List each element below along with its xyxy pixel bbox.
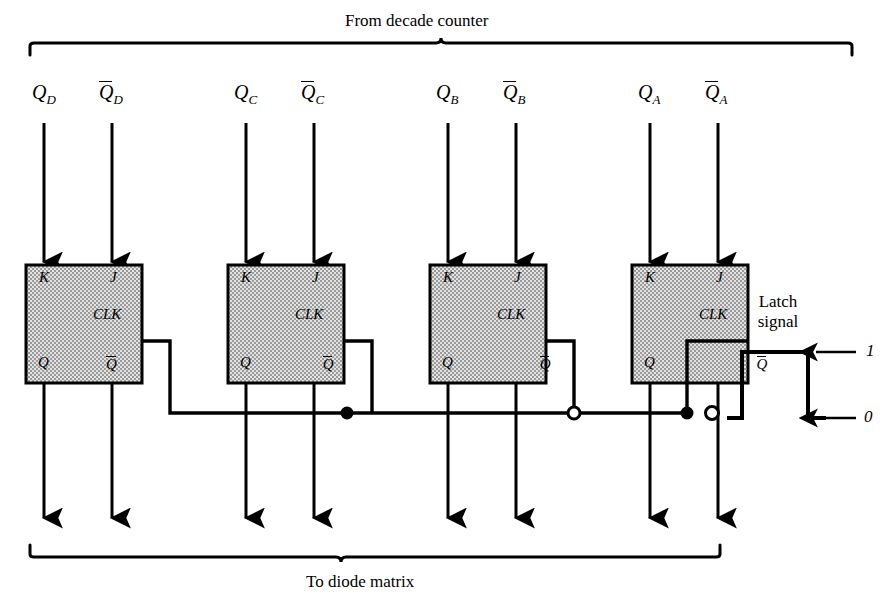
input-label-qbar-d-base: Q bbox=[99, 82, 113, 102]
ff-c-pin-k: K bbox=[241, 270, 251, 285]
input-label-q-b-sub: B bbox=[450, 92, 458, 107]
ff-a-pin-k: K bbox=[645, 270, 655, 285]
input-label-q-d: QD bbox=[32, 82, 56, 106]
input-label-q-d-base: Q bbox=[32, 81, 46, 103]
input-label-qbar-b-base: Q bbox=[503, 82, 517, 102]
ff-c-pin-clk: CLK bbox=[295, 307, 323, 322]
ff-c-pin-q: Q bbox=[240, 355, 251, 370]
bottom-brace-label: To diode matrix bbox=[306, 573, 414, 590]
input-label-qbar-a: QA bbox=[705, 82, 727, 106]
input-label-q-c-base: Q bbox=[234, 81, 248, 103]
ff-b-pin-clk: CLK bbox=[497, 307, 525, 322]
flipflop-boxes bbox=[26, 265, 748, 383]
input-label-q-b-base: Q bbox=[436, 81, 450, 103]
input-label-qbar-a-base: Q bbox=[705, 82, 719, 102]
input-label-q-c-sub: C bbox=[248, 92, 257, 107]
top-brace-label: From decade counter bbox=[345, 12, 489, 29]
bus-terminal-circle bbox=[706, 407, 719, 420]
ff-b-pin-j: J bbox=[514, 270, 521, 285]
ff-a-pin-qbar: Q bbox=[757, 357, 768, 372]
ff-a-pin-j: J bbox=[716, 270, 723, 285]
input-label-q-d-sub: D bbox=[46, 92, 55, 107]
input-label-qbar-b: QB bbox=[503, 82, 525, 106]
input-label-qbar-c: QC bbox=[301, 82, 324, 106]
input-label-qbar-c-base: Q bbox=[301, 82, 315, 102]
ff-d-pin-qbar: Q bbox=[106, 357, 117, 372]
junction-dot bbox=[681, 407, 694, 420]
input-label-qbar-a-sub: A bbox=[719, 92, 727, 107]
level-arrows bbox=[816, 352, 856, 418]
ff-c-pin-qbar: Q bbox=[323, 357, 334, 372]
junction-dot bbox=[341, 407, 354, 420]
waveform-low-label: 0 bbox=[864, 408, 873, 425]
bottom-brace bbox=[30, 545, 720, 562]
output-lines bbox=[44, 383, 718, 518]
ff-a-pin-clk: CLK bbox=[699, 307, 727, 322]
latch-circuit-diagram: From decade counter QD QD QC QC QB QB QA… bbox=[0, 0, 890, 605]
ff-a-pin-q: Q bbox=[644, 355, 655, 370]
ff-d-pin-k: K bbox=[39, 270, 49, 285]
latch-signal-label-line1: Latch bbox=[758, 292, 799, 312]
input-label-q-a-sub: A bbox=[652, 92, 660, 107]
ff-c-pin-j: J bbox=[312, 270, 319, 285]
ff-b-pin-q: Q bbox=[442, 355, 453, 370]
waveform-high-label: 1 bbox=[866, 342, 875, 359]
top-brace bbox=[30, 38, 852, 55]
input-label-qbar-d-sub: D bbox=[113, 92, 122, 107]
latch-signal-label-line2: signal bbox=[758, 312, 799, 332]
input-label-qbar-d: QD bbox=[99, 82, 123, 106]
input-label-qbar-c-sub: C bbox=[315, 92, 324, 107]
ff-d-pin-clk: CLK bbox=[93, 307, 121, 322]
input-lines bbox=[44, 123, 718, 262]
ff-b-pin-qbar: Q bbox=[540, 357, 551, 372]
input-label-q-c: QC bbox=[234, 82, 257, 106]
latch-signal-label: Latch signal bbox=[758, 292, 799, 331]
input-label-q-a: QA bbox=[638, 82, 660, 106]
junction-ring bbox=[568, 407, 580, 419]
input-label-qbar-b-sub: B bbox=[517, 92, 525, 107]
input-label-q-b: QB bbox=[436, 82, 458, 106]
input-label-q-a-base: Q bbox=[638, 81, 652, 103]
ff-d-pin-j: J bbox=[110, 270, 117, 285]
ff-b-pin-k: K bbox=[443, 270, 453, 285]
ff-d-pin-q: Q bbox=[38, 355, 49, 370]
latch-waveform bbox=[727, 352, 826, 418]
